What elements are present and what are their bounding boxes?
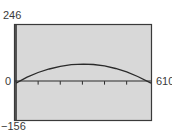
graph-window — [0, 0, 172, 132]
plot-area — [15, 25, 152, 121]
